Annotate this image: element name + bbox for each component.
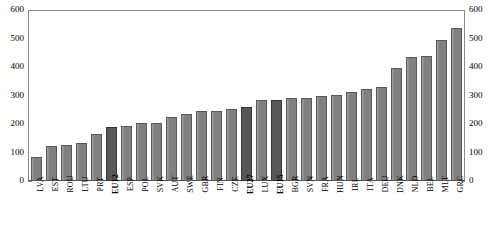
x-axis-label-grc: GRC — [457, 175, 465, 192]
bar-fra — [316, 96, 327, 182]
y-tick-label-right-0: 0 — [469, 176, 474, 185]
bar-nld — [406, 57, 417, 181]
bar-fin — [211, 111, 222, 181]
bar-slot-est — [44, 11, 59, 181]
x-label-slot-prt: PRT — [89, 182, 104, 234]
bar-slot-svk — [149, 11, 164, 181]
x-label-slot-dnk: DNK — [389, 182, 404, 234]
y-axis-left: 0100200300400500600 — [0, 0, 26, 234]
bar-series — [29, 11, 464, 181]
x-label-slot-esp: ESP — [119, 182, 134, 234]
bar-gbr — [196, 111, 207, 181]
x-label-slot-pol: POL — [134, 182, 149, 234]
y-tick-label-right-300: 300 — [469, 91, 483, 100]
bar-slot-deu — [374, 11, 389, 181]
bar-esp — [121, 126, 132, 181]
x-label-slot-ltu: LTU — [74, 182, 89, 234]
bar-ltu — [76, 143, 87, 181]
bar-eu27 — [241, 107, 252, 181]
x-label-slot-cze: CZE — [224, 182, 239, 234]
bar-slot-hun — [329, 11, 344, 181]
x-label-slot-svk: SVK — [149, 182, 164, 234]
bar-slot-fin — [209, 11, 224, 181]
bar-slot-prt — [89, 11, 104, 181]
bar-slot-cze — [224, 11, 239, 181]
bar-svk — [151, 123, 162, 181]
y-tick-label-right-100: 100 — [469, 148, 483, 157]
x-label-slot-grc: GRC — [449, 182, 464, 234]
y-tick-label-left-400: 400 — [11, 62, 25, 71]
y-tick-label-right-200: 200 — [469, 119, 483, 128]
bar-slot-aut — [164, 11, 179, 181]
x-label-slot-gbr: GBR — [194, 182, 209, 234]
x-label-slot-est: EST — [44, 182, 59, 234]
x-label-slot-eu27: EU27 — [239, 182, 254, 234]
x-label-slot-lva: LVA — [29, 182, 44, 234]
x-label-slot-aut: AUT — [164, 182, 179, 234]
bar-lux — [256, 100, 267, 181]
x-axis-category-labels: LVAESTROULTUPRTEU12ESPPOLSVKAUTSWEGBRFIN… — [29, 182, 464, 234]
bar-irl — [346, 92, 357, 181]
y-tick-label-left-600: 600 — [11, 5, 25, 14]
bar-slot-swe — [179, 11, 194, 181]
x-label-slot-ita: ITA — [359, 182, 374, 234]
bar-slot-grc — [449, 11, 464, 181]
bar-dnk — [391, 68, 402, 181]
bar-slot-svn — [299, 11, 314, 181]
bar-slot-ltu — [74, 11, 89, 181]
y-tick-label-right-500: 500 — [469, 34, 483, 43]
x-label-slot-fin: FIN — [209, 182, 224, 234]
y-tick-label-left-100: 100 — [11, 148, 25, 157]
bar-cze — [226, 109, 237, 181]
y-tick-label-left-300: 300 — [11, 91, 25, 100]
bar-prt — [91, 134, 102, 181]
bar-eu12 — [106, 127, 117, 181]
x-label-slot-svn: SVN — [299, 182, 314, 234]
bar-ita — [361, 89, 372, 181]
bar-slot-mlt — [434, 11, 449, 181]
bar-slot-gbr — [194, 11, 209, 181]
x-label-slot-deu: DEU — [374, 182, 389, 234]
bar-deu — [376, 87, 387, 181]
y-tick-label-left-200: 200 — [11, 119, 25, 128]
bar-grc — [451, 28, 462, 181]
x-label-slot-mlt: MLT — [434, 182, 449, 234]
bar-slot-bgr — [284, 11, 299, 181]
x-label-slot-swe: SWE — [179, 182, 194, 234]
bar-aut — [166, 117, 177, 181]
bar-slot-rou — [59, 11, 74, 181]
bar-pol — [136, 123, 147, 181]
bar-swe — [181, 114, 192, 181]
bar-svn — [301, 98, 312, 182]
bar-mlt — [436, 40, 447, 181]
bar-slot-pol — [134, 11, 149, 181]
bar-bgr — [286, 98, 297, 181]
bar-slot-ita — [359, 11, 374, 181]
bar-chart: 0100200300400500600 0100200300400500600 … — [0, 0, 493, 234]
x-label-slot-rou: ROU — [59, 182, 74, 234]
x-label-slot-lux: LUX — [254, 182, 269, 234]
bar-slot-fra — [314, 11, 329, 181]
bar-slot-eu15 — [269, 11, 284, 181]
y-tick-label-left-500: 500 — [11, 34, 25, 43]
x-label-slot-fra: FRA — [314, 182, 329, 234]
bar-hun — [331, 95, 342, 181]
y-tick-label-left-0: 0 — [20, 176, 25, 185]
y-tick-label-right-600: 600 — [469, 5, 483, 14]
x-label-slot-irl: IRL — [344, 182, 359, 234]
x-label-slot-nld: NLD — [404, 182, 419, 234]
bar-slot-irl — [344, 11, 359, 181]
bar-slot-lux — [254, 11, 269, 181]
bar-slot-dnk — [389, 11, 404, 181]
bar-slot-esp — [119, 11, 134, 181]
x-label-slot-bel: BEL — [419, 182, 434, 234]
bar-eu15 — [271, 100, 282, 181]
bar-slot-eu27 — [239, 11, 254, 181]
bar-slot-eu12 — [104, 11, 119, 181]
bar-slot-nld — [404, 11, 419, 181]
x-label-slot-hun: HUN — [329, 182, 344, 234]
x-label-slot-bgr: BGR — [284, 182, 299, 234]
bar-bel — [421, 56, 432, 181]
y-tick-label-right-400: 400 — [469, 62, 483, 71]
bar-slot-lva — [29, 11, 44, 181]
